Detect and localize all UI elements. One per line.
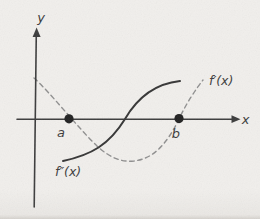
function-graph-figure: y x a b f′(x) f″(x): [0, 0, 260, 219]
graph-svg: y x a b f′(x) f″(x): [0, 0, 260, 219]
paper-grain-texture: [0, 0, 260, 219]
bottom-scan-shadow: [0, 190, 260, 219]
